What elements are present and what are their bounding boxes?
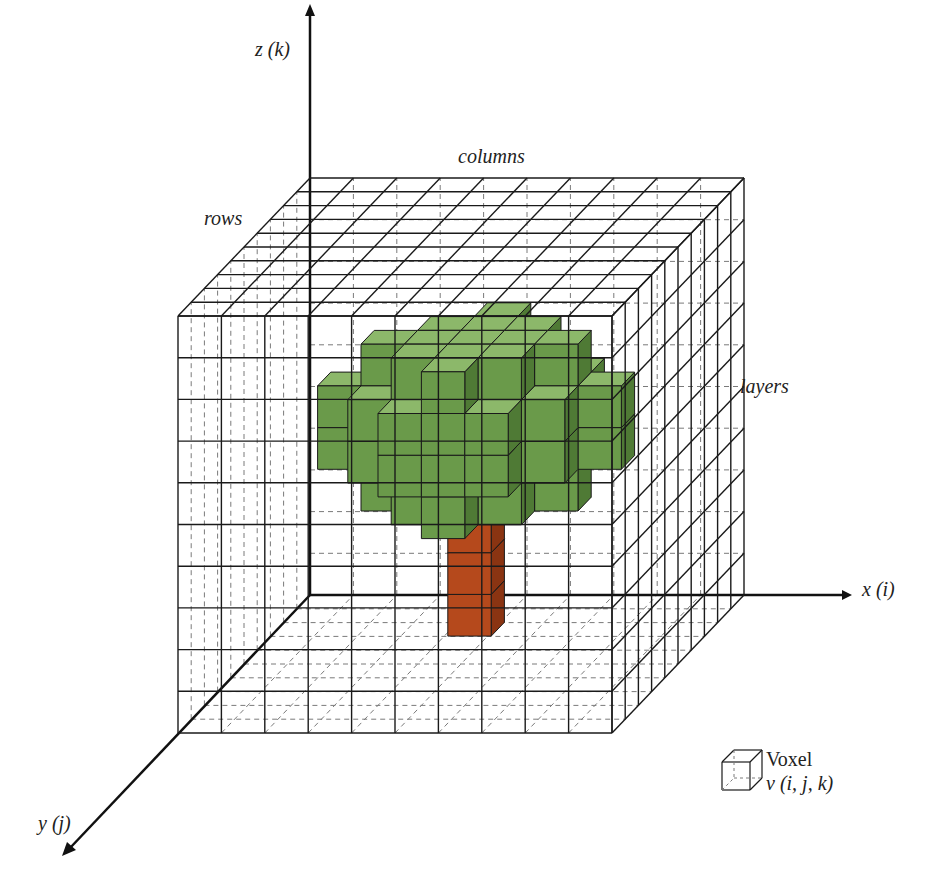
rows-label: rows [204,207,242,230]
canopy-voxel-front [421,497,464,539]
trunk-voxel-front [448,594,491,636]
x-axis-arrow-icon [842,590,852,600]
canopy-voxel-front [421,455,464,497]
canopy-voxel-front [521,441,564,483]
layers-label: layers [740,375,789,398]
voxel-diagram: z (k) x (i) y (j) columns rows layers Vo… [0,0,946,892]
z-axis-label: z (k) [255,38,290,61]
canopy-voxel-front [465,414,508,456]
y-axis-label: y (j) [38,812,71,835]
voxel-legend-icon [750,750,762,762]
canopy-voxel-front [378,414,421,456]
canopy-voxel-front [465,455,508,497]
voxel-legend-icon [722,778,734,790]
canopy-voxel-front [478,358,521,400]
trunk-voxel-front [448,553,491,595]
canopy-voxel-front [535,344,578,386]
y-axis-line [70,595,310,848]
canopy-voxel-front [521,400,564,442]
figure-caption-truncated [0,880,946,892]
canopy-voxel-front [421,414,464,456]
columns-label: columns [458,145,525,168]
canopy-voxel-front [378,455,421,497]
canopy-voxel-front [578,428,621,470]
voxel-legend-icon [750,778,762,790]
voxel-legend-title: Voxel [766,748,812,771]
x-axis-label: x (i) [862,578,895,601]
canopy-voxel-front [421,372,464,414]
canopy-voxel-front [578,386,621,428]
floor-dashed-line [221,595,353,733]
z-axis-arrow-icon [305,4,315,16]
voxel-legend-subtitle: v (i, j, k) [766,772,833,795]
voxel-legend-icon [722,750,734,762]
